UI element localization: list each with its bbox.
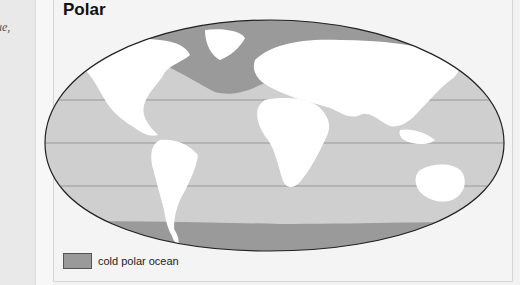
legend-swatch-cold-polar-ocean: [63, 253, 92, 269]
map-legend: cold polar ocean: [63, 253, 179, 269]
world-map: [0, 0, 520, 285]
legend-label: cold polar ocean: [98, 255, 179, 267]
south-polar-ocean: [40, 221, 510, 255]
new-zealand: [477, 205, 482, 214]
